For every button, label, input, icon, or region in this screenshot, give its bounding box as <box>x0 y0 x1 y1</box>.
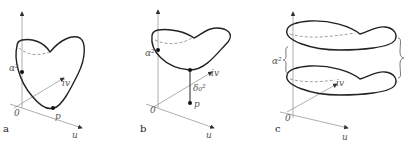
origin-label: 0 <box>14 108 20 118</box>
iv-label: iv <box>336 78 344 88</box>
u-label: u <box>72 130 78 140</box>
top-hidden-curve <box>290 33 355 37</box>
figure: α² p iv 0 u a α² δ₀² p iv 0 u b α² <box>0 0 407 148</box>
iv-axis <box>287 84 337 112</box>
panel-c: α² iv 0 u c <box>272 12 404 142</box>
p-label: p <box>55 111 61 121</box>
p-point <box>188 101 192 105</box>
panel-label-a: a <box>3 123 9 134</box>
hidden-curve <box>19 48 49 55</box>
surface-curve <box>152 28 231 70</box>
alpha-label: α² <box>272 56 282 66</box>
panel-label-b: b <box>140 123 146 134</box>
iv-label: iv <box>211 68 219 78</box>
surface-curve <box>16 37 84 109</box>
top-point <box>188 68 192 72</box>
iv-label: iv <box>62 78 70 88</box>
panel-b: α² δ₀² p iv 0 u b <box>140 10 230 140</box>
panel-a: α² p iv 0 u a <box>3 12 84 140</box>
origin-label: 0 <box>150 105 156 115</box>
p-point <box>51 106 55 110</box>
origin-label: 0 <box>285 113 291 123</box>
u-label: u <box>206 130 212 140</box>
panel-label-c: c <box>275 123 281 134</box>
alpha-point <box>20 70 24 74</box>
alpha-label: α² <box>9 63 19 73</box>
right-brace <box>398 38 404 78</box>
alpha-label: α² <box>145 48 155 58</box>
delta-label: δ₀² <box>193 83 206 93</box>
u-axis <box>146 104 214 128</box>
hidden-curve <box>155 38 192 44</box>
u-label: u <box>342 132 348 142</box>
left-brace <box>283 47 288 73</box>
top-loop-curve <box>287 21 396 50</box>
bottom-hidden-curve <box>290 79 335 82</box>
alpha-point <box>156 48 160 52</box>
p-label: p <box>194 99 200 109</box>
